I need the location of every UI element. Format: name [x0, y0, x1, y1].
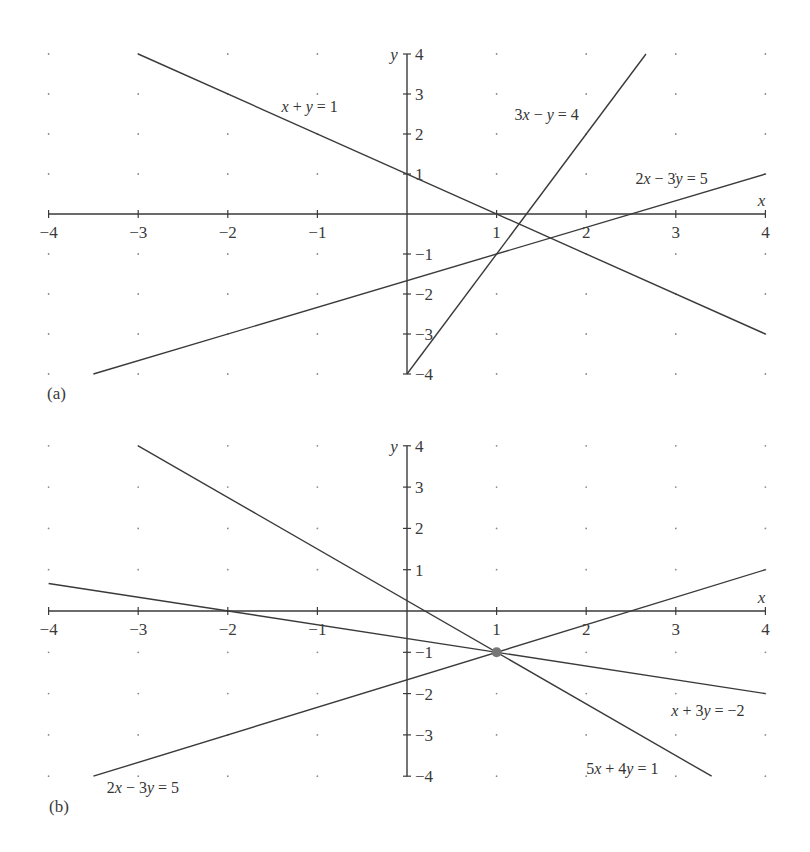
y-tick-label: −1: [415, 643, 433, 662]
x-tick-label: −3: [129, 620, 147, 639]
panel-label-b: (b): [49, 797, 69, 817]
grid-dot: [765, 651, 767, 653]
grid-dot: [765, 528, 767, 530]
grid-dot: [317, 445, 319, 447]
grid-dot: [585, 569, 587, 571]
chart-b-plot: −4−3−2−11234−4−3−2−11234xy2x − 3y = 5x +…: [0, 0, 810, 852]
x-axis-label: x: [757, 588, 766, 607]
grid-dot: [496, 445, 498, 447]
grid-dot: [317, 569, 319, 571]
grid-dot: [227, 486, 229, 488]
grid-dot: [765, 486, 767, 488]
equation-label: 2x − 3y = 5: [107, 779, 179, 797]
grid-dot: [496, 693, 498, 695]
grid-dot: [675, 569, 677, 571]
grid-dot: [48, 693, 50, 695]
chart-panel-b: −4−3−2−11234−4−3−2−11234xy2x − 3y = 5x +…: [0, 0, 810, 852]
y-tick-label: −3: [415, 726, 433, 745]
y-tick-label: 1: [415, 561, 424, 580]
y-tick-label: 4: [415, 437, 424, 456]
grid-dot: [227, 528, 229, 530]
grid-dot: [317, 775, 319, 777]
grid-dot: [137, 693, 139, 695]
grid-dot: [675, 693, 677, 695]
grid-dot: [137, 651, 139, 653]
grid-dot: [675, 445, 677, 447]
grid-dot: [48, 528, 50, 530]
grid-dot: [765, 734, 767, 736]
grid-dot: [317, 486, 319, 488]
x-tick-label: −4: [40, 620, 59, 639]
grid-dot: [227, 775, 229, 777]
grid-dot: [585, 693, 587, 695]
grid-dot: [48, 651, 50, 653]
grid-dot: [675, 734, 677, 736]
y-tick-label: −2: [415, 685, 433, 704]
grid-dot: [585, 734, 587, 736]
grid-dot: [137, 486, 139, 488]
grid-dot: [227, 693, 229, 695]
grid-dot: [137, 775, 139, 777]
x-tick-label: 2: [582, 620, 591, 639]
grid-dot: [48, 486, 50, 488]
grid-dot: [675, 528, 677, 530]
grid-dot: [496, 569, 498, 571]
grid-dot: [227, 445, 229, 447]
grid-dot: [137, 734, 139, 736]
intersection-point: [492, 647, 502, 657]
x-tick-label: 4: [761, 620, 770, 639]
grid-dot: [48, 445, 50, 447]
series-line: [93, 570, 765, 777]
grid-dot: [227, 569, 229, 571]
x-tick-label: −2: [219, 620, 237, 639]
equation-label: 5x + 4y = 1: [586, 760, 658, 778]
grid-dot: [585, 528, 587, 530]
y-tick-label: 2: [415, 519, 424, 538]
grid-dot: [496, 734, 498, 736]
grid-dot: [675, 651, 677, 653]
grid-dot: [496, 775, 498, 777]
x-tick-label: 3: [672, 620, 681, 639]
grid-dot: [675, 486, 677, 488]
grid-dot: [496, 528, 498, 530]
x-tick-label: 1: [492, 620, 501, 639]
grid-dot: [585, 651, 587, 653]
grid-dot: [765, 775, 767, 777]
grid-dot: [585, 445, 587, 447]
y-axis-label: y: [388, 437, 398, 456]
grid-dot: [585, 486, 587, 488]
y-tick-label: −4: [415, 767, 434, 786]
grid-dot: [48, 569, 50, 571]
grid-dot: [48, 734, 50, 736]
grid-dot: [317, 693, 319, 695]
y-tick-label: 3: [415, 478, 424, 497]
grid-dot: [675, 775, 677, 777]
x-tick-label: −1: [308, 620, 326, 639]
equation-label: x + 3y = −2: [670, 702, 744, 720]
grid-dot: [317, 528, 319, 530]
grid-dot: [137, 528, 139, 530]
grid-dot: [48, 775, 50, 777]
grid-dot: [317, 734, 319, 736]
grid-dot: [317, 651, 319, 653]
grid-dot: [496, 486, 498, 488]
grid-dot: [227, 651, 229, 653]
grid-dot: [137, 569, 139, 571]
grid-dot: [765, 445, 767, 447]
